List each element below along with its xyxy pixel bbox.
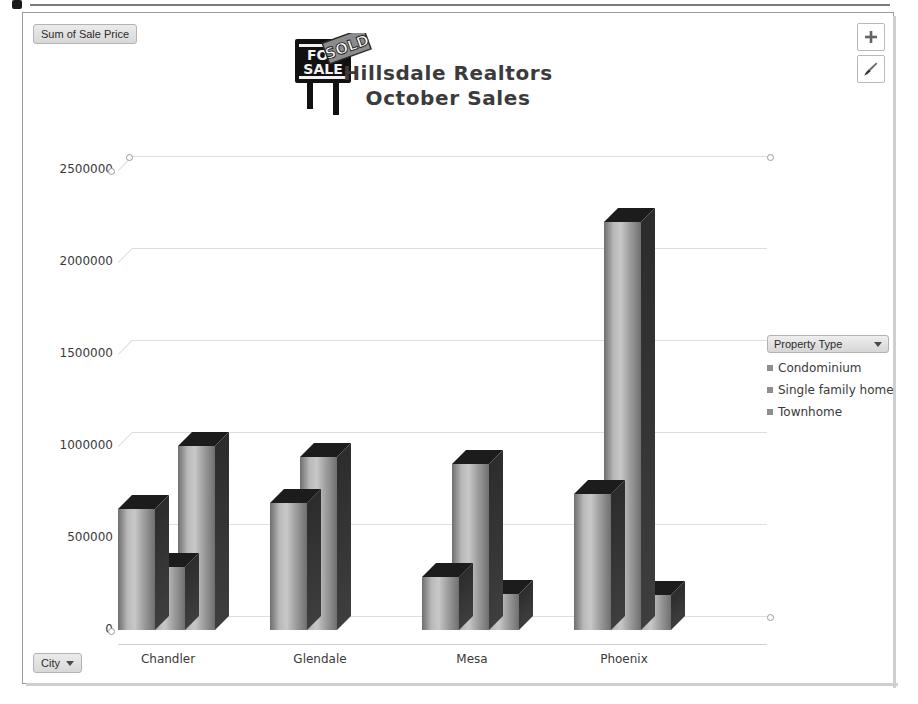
axis-handle-marker[interactable] [108, 168, 115, 175]
legend[interactable]: Property Type CondominiumSingle family h… [767, 335, 889, 419]
gridline [132, 156, 767, 157]
legend-item[interactable]: Single family home [767, 383, 889, 397]
legend-field-label: Property Type [774, 338, 842, 350]
legend-item-label: Condominium [778, 361, 862, 375]
pivotchart-object[interactable]: Sum of Sale Price City FOR SALE SOL [22, 12, 894, 684]
legend-item[interactable]: Condominium [767, 361, 889, 375]
bar-side-face [489, 450, 503, 630]
ribbon-marker [12, 0, 22, 9]
frame-shadow-bottom [26, 683, 898, 686]
gridline-depth-edge [118, 432, 133, 447]
y-axis-tick-label: 2500000 [60, 162, 113, 176]
legend-items: CondominiumSingle family homeTownhome [767, 361, 889, 419]
bar-side-face [611, 480, 625, 630]
bar-front-face [118, 509, 155, 630]
bar-front-face [270, 503, 307, 630]
gridline [132, 248, 767, 249]
bar[interactable] [574, 480, 625, 630]
x-axis-tick-label: Glendale [260, 652, 380, 666]
bar[interactable] [270, 489, 321, 630]
x-axis-line [118, 644, 767, 645]
bar-side-face [641, 208, 655, 630]
legend-swatch [767, 409, 773, 415]
bar-side-face [185, 553, 199, 630]
y-axis-tick-label: 500000 [67, 530, 113, 544]
y-axis-tick-label: 1000000 [60, 438, 113, 452]
gridline [132, 340, 767, 341]
chart-title-line-2: October Sales [283, 86, 613, 111]
y-axis: 05000001000000150000020000002500000 [33, 13, 113, 683]
legend-item[interactable]: Townhome [767, 405, 889, 419]
bar[interactable] [422, 563, 473, 630]
bar[interactable] [118, 495, 169, 630]
chart-title: Hillsdale Realtors October Sales [283, 61, 613, 111]
gridline-depth-edge [118, 248, 133, 263]
x-axis-tick-label: Phoenix [564, 652, 684, 666]
legend-item-label: Townhome [778, 405, 842, 419]
y-axis-tick-label: 2000000 [60, 254, 113, 268]
legend-swatch [767, 387, 773, 393]
x-axis-tick-label: Chandler [108, 652, 228, 666]
bar-side-face [215, 432, 229, 630]
chevron-down-icon [874, 342, 882, 347]
legend-item-label: Single family home [778, 383, 894, 397]
axis-handle-marker[interactable] [108, 628, 115, 635]
bar-side-face [307, 489, 321, 630]
ribbon-edge-strip [0, 0, 918, 10]
frame-shadow-right [893, 16, 896, 688]
axis-handle-marker[interactable] [126, 154, 133, 161]
bar-side-face [155, 495, 169, 630]
y-axis-tick-label: 1500000 [60, 346, 113, 360]
gridline-depth-edge [118, 340, 133, 355]
legend-field-button[interactable]: Property Type [767, 335, 889, 353]
axis-handle-marker[interactable] [767, 154, 774, 161]
legend-swatch [767, 365, 773, 371]
bar-side-face [337, 443, 351, 630]
bar-front-face [574, 494, 611, 630]
chart-title-line-1: Hillsdale Realtors [283, 61, 613, 86]
axis-handle-marker[interactable] [767, 614, 774, 621]
ribbon-rule [30, 4, 890, 6]
x-axis-tick-label: Mesa [412, 652, 532, 666]
bar-front-face [422, 577, 459, 630]
plot-area: FOR SALE SOLD Hillsdale Realtors October… [23, 13, 893, 683]
